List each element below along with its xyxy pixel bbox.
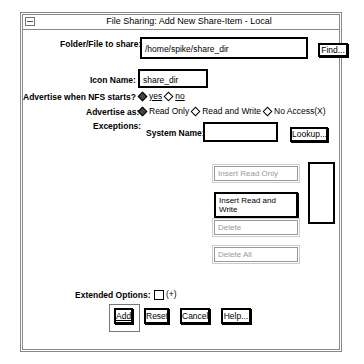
expand-icon[interactable]: (+) — [166, 289, 177, 299]
read-only-radio[interactable] — [138, 107, 148, 117]
system-name-label: System Name: — [146, 128, 205, 138]
read-write-radio[interactable] — [191, 107, 201, 117]
find-button[interactable]: Find... — [318, 43, 348, 57]
nfs-yes-label[interactable]: yes — [149, 91, 162, 101]
insert-read-write-button[interactable]: Insert Read and Write — [214, 192, 298, 218]
nfs-label: Advertise when NFS starts? — [23, 92, 136, 102]
advertise-radio-group: Read OnlyRead and WriteNo Access(X) — [136, 106, 326, 116]
insert-read-only-button[interactable]: Insert Read Only — [214, 166, 298, 181]
extended-options-label: Extended Options: — [75, 290, 151, 300]
exceptions-label: Exceptions: — [93, 121, 141, 131]
cancel-button-label: Cancel — [182, 311, 208, 321]
help-button[interactable]: Help... — [221, 308, 251, 324]
system-name-input[interactable] — [203, 122, 278, 142]
nfs-yes-radio[interactable] — [138, 92, 148, 102]
icon-name-label: Icon Name: — [90, 75, 136, 85]
delete-button[interactable]: Delete — [214, 220, 298, 235]
cancel-button[interactable]: Cancel — [180, 308, 210, 324]
window-menu-button[interactable] — [25, 17, 35, 26]
read-write-label[interactable]: Read and Write — [202, 106, 261, 116]
add-button[interactable]: Add — [114, 308, 133, 324]
reset-button-label: Reset — [146, 311, 168, 321]
no-access-label[interactable]: No Access(X) — [274, 106, 326, 116]
delete-all-button[interactable]: Delete All — [214, 247, 298, 262]
nfs-radio-group: yesno — [136, 91, 185, 101]
exceptions-list[interactable] — [308, 162, 335, 224]
extended-options-checkbox[interactable] — [154, 290, 164, 300]
nfs-no-radio[interactable] — [164, 92, 174, 102]
nfs-no-label[interactable]: no — [175, 91, 184, 101]
lookup-button[interactable]: Lookup... — [290, 127, 328, 142]
find-button-label: Find... — [321, 45, 345, 55]
window-title: File Sharing: Add New Share-Item - Local — [39, 16, 339, 26]
read-only-label[interactable]: Read Only — [149, 106, 189, 116]
reset-button[interactable]: Reset — [144, 308, 169, 324]
icon-name-input[interactable]: share_dir — [138, 69, 208, 88]
folder-input[interactable]: /home/spike/share_dir — [140, 37, 308, 59]
lookup-button-label: Lookup... — [292, 129, 327, 139]
advertise-as-label: Advertise as: — [86, 107, 139, 117]
extended-options-group: (+) — [154, 289, 177, 300]
no-access-radio[interactable] — [263, 107, 273, 117]
help-button-label: Help... — [224, 311, 249, 321]
title-bar: File Sharing: Add New Share-Item - Local — [23, 15, 339, 30]
file-sharing-dialog: File Sharing: Add New Share-Item - Local… — [20, 12, 342, 352]
folder-label: Folder/File to share: — [60, 39, 141, 49]
add-button-label: Add — [116, 311, 131, 321]
